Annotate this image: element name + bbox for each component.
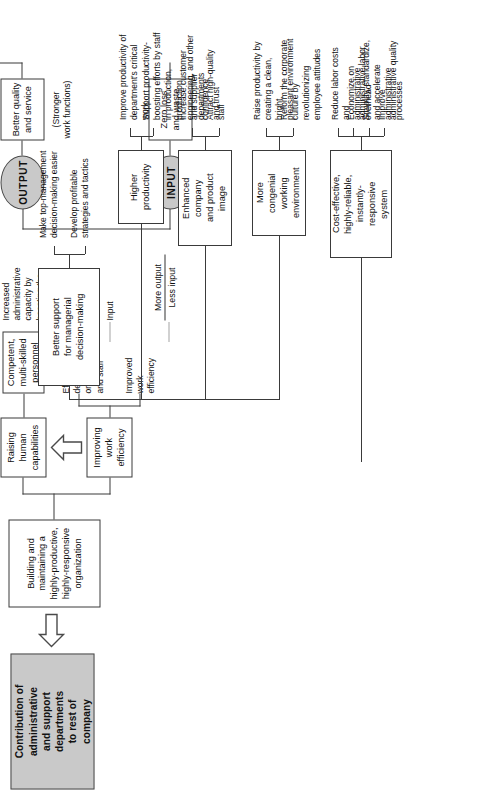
result-3-note-stub — [205, 136, 206, 150]
result-2-note-2-tick — [153, 128, 154, 136]
result-3-note-2-tick — [219, 128, 220, 136]
result-1-note-2-tick — [85, 246, 86, 254]
result-3-note-1-tick — [192, 128, 193, 136]
output-trunk-drop-4 — [279, 236, 280, 400]
result-4-note-stub — [279, 136, 280, 150]
result-2-note-bus — [130, 136, 153, 137]
result-5-note-2: Economize on administrative labor — [346, 32, 362, 120]
result-4-note-1-tick — [266, 128, 267, 136]
result-5-note-3-tick — [369, 128, 370, 136]
result-1-note-2: Develop profitable strategies and tactic… — [69, 32, 100, 238]
result-4-note-bus — [266, 136, 293, 137]
results-column: Better support for managerial decision-m… — [0, 0, 488, 807]
diagram-canvas: Contribution of administrative and suppo… — [0, 0, 488, 807]
output-trunk-drop-2 — [141, 224, 142, 400]
output-trunk-bus — [69, 399, 279, 400]
result-2-note-1-tick — [130, 128, 131, 136]
result-box-2: Higher productivity — [118, 150, 164, 224]
output-trunk-drop-3 — [205, 246, 206, 400]
result-5-note-1-tick — [338, 128, 339, 136]
result-box-5: Cost-effective, highly-reliable, instant… — [330, 150, 392, 258]
result-3-note-2: Attract high-quality staff — [205, 32, 232, 120]
result-box-1: Better support for managerial decision-m… — [38, 268, 100, 386]
result-2-note-stub — [141, 136, 142, 150]
result-5-note-2-tick — [353, 128, 354, 136]
result-5-note-4: Improve administrative quality — [377, 32, 393, 120]
result-1-note-stub — [69, 254, 70, 268]
result-5-note-stub — [361, 136, 362, 150]
result-3-note-bus — [192, 136, 219, 137]
result-1-note-1-tick — [54, 246, 55, 254]
result-2-note-1: Improve productivity of department's cri… — [118, 32, 141, 120]
result-5-note-4-tick — [384, 128, 385, 136]
result-box-4: More congenial working environment — [252, 150, 306, 236]
result-1-note-1: Make top-management decision-making easi… — [38, 32, 69, 238]
result-4-note-2: Reform the corporate culture by revoluti… — [279, 32, 306, 120]
result-2-note-2: Support productivity- boosting efforts b… — [141, 32, 164, 120]
input-trunk-drop — [361, 258, 362, 462]
output-trunk-drop-1 — [69, 386, 70, 400]
result-5-note-bus — [338, 136, 385, 137]
result-box-3: Enhanced company and product image — [178, 150, 232, 246]
result-5-note-1: Reduce labor costs and administrative ov… — [330, 32, 346, 120]
result-1-note-bus — [54, 254, 85, 255]
result-4-note-2-tick — [293, 128, 294, 136]
result-3-note-1: Increase customer and supplier confidenc… — [178, 32, 205, 120]
result-4-note-1: Raise productivity by creating a clean, … — [252, 32, 279, 120]
result-5-note-3: Simplify, standardize, and accelerate ad… — [361, 32, 377, 120]
